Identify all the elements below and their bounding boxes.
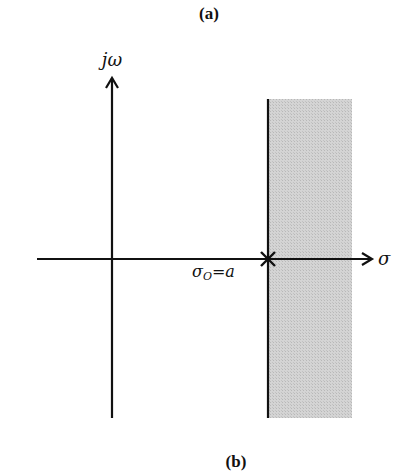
- caption-b: (b): [226, 452, 247, 471]
- horizontal-axis-label: σ: [378, 248, 391, 269]
- s-plane-diagram: (a) jω σ σO=a (b): [0, 0, 418, 474]
- caption-a: (a): [199, 4, 219, 23]
- vertical-axis-label: jω: [98, 49, 123, 70]
- vertical-axis: [106, 78, 118, 418]
- point-label: σO=a: [192, 262, 235, 283]
